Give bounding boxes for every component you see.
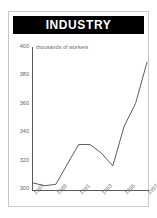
y-tick-label: 360 (20, 101, 29, 107)
y-tick: 400 (10, 44, 29, 52)
industry-chart-figure: INDUSTRY thousands of workers 3003203403… (0, 0, 157, 218)
chart-title-bar: INDUSTRY (13, 16, 144, 34)
y-tick: 300 (10, 186, 29, 194)
y-tick-label: 400 (20, 44, 29, 50)
figure-frame (8, 11, 149, 207)
y-tick: 320 (10, 158, 29, 166)
y-axis-line (32, 47, 33, 191)
y-tick-label: 340 (20, 129, 29, 135)
y-tick: 380 (10, 72, 29, 80)
y-axis-unit-label: thousands of workers (36, 45, 88, 51)
y-tick: 360 (10, 101, 29, 109)
page-title: INDUSTRY (46, 19, 112, 31)
y-tick-label: 380 (20, 72, 29, 78)
y-tick-label: 300 (20, 186, 29, 192)
y-tick: 340 (10, 129, 29, 137)
y-tick-label: 320 (20, 158, 29, 164)
